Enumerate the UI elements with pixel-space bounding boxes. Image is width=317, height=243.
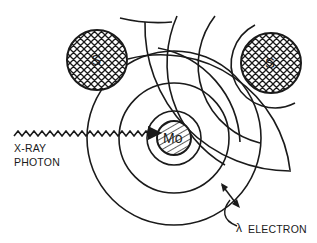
xray-label-line1: X-RAY [14, 142, 46, 154]
xray-label-line2: PHOTON [14, 156, 60, 168]
molybdenum-label: Mo [163, 131, 182, 145]
xray-photon-wave [14, 131, 154, 136]
lambda-symbol: λ [236, 222, 242, 234]
sulfur-right-label: S [265, 55, 275, 70]
backscatter-wave-5 [120, 18, 172, 23]
electron-label: ELECTRON [248, 223, 307, 235]
exafs-diagram [0, 0, 317, 243]
sulfur-left-label: S [91, 52, 101, 67]
